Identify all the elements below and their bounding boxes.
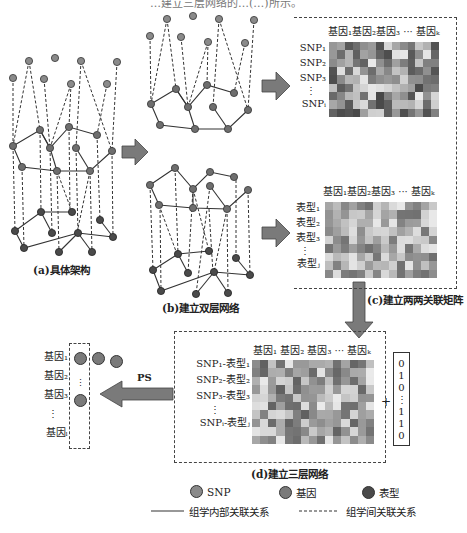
matrix3-col-header: 基因₁ 基因₂ 基因₃ ··· 基因ₖ (253, 342, 371, 357)
legend-dashed-line: 组学间关联关系 (346, 504, 416, 519)
arrow-b-upper-to-c (262, 72, 290, 100)
snp-phenotype-gene-heatmap (252, 360, 374, 444)
label-vector: 0 1 0 ⋮ 1 1 0 (393, 352, 410, 446)
caption-a: (a)具体架构 (33, 262, 90, 277)
gene-node-icon (74, 394, 87, 407)
ps-gene-dots: ⋮ (74, 352, 123, 411)
panel-b-lower-network (146, 164, 253, 297)
gene-node-icon (110, 355, 123, 368)
legend-gene: 基因 (279, 485, 316, 500)
caption-d: (d)建立三层网络 (251, 466, 328, 481)
matrix2-col-header: 基因₁基因₂基因₃ ··· 基因ₖ (323, 183, 435, 198)
phenotype-gene-heatmap (325, 202, 437, 278)
gene-node-icon (92, 352, 105, 365)
caption-b: (b)建立双层网络 (162, 300, 239, 315)
arrow-c-to-d (345, 282, 373, 338)
ps-gene-labels: 基因₁ 基因₂ 基因₃ ⋮ 基因ₗ (38, 347, 68, 442)
gene-node-icon (74, 352, 87, 365)
arrow-b-lower-to-c (262, 219, 290, 247)
snp-node-icon (190, 485, 203, 498)
phenotype-node-icon (362, 486, 375, 499)
plus-sign: + (381, 395, 391, 409)
snp-gene-heatmap (329, 42, 439, 117)
matrix3-row-labels: SNP₁-表型₁ SNP₂-表型₂ SNP₃-表型₃ ⋮ SNPᵢ-表型ⱼ (180, 356, 250, 431)
legend-solid-line: 组学内部关联关系 (189, 504, 269, 519)
legend-phenotype: 表型 (362, 485, 399, 500)
matrix1-row-labels: SNP₁ SNP₂ SNP₃ ⋮ SNPᵢ (296, 40, 326, 111)
matrix2-row-labels: 表型₁ 表型₂ 表型₃ ⋮ 表型ⱼ (290, 200, 320, 271)
ellipsis: ⋮ (74, 376, 86, 390)
ps-label: PS (137, 372, 152, 383)
panel-b-upper-network (146, 12, 257, 132)
matrix1-col-header: 基因₁基因₂基因₃ ··· 基因ₖ (328, 23, 440, 38)
legend-snp: SNP (190, 485, 230, 498)
panel-a-network (9, 54, 120, 255)
arrow-a-to-b (122, 139, 148, 165)
gene-node-icon (279, 486, 292, 499)
caption-c: (c)建立两两关联矩阵 (367, 292, 463, 307)
